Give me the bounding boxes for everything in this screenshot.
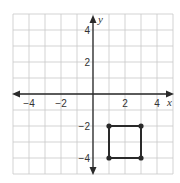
vertex-point: [106, 123, 111, 128]
x-tick-label: 4: [154, 98, 160, 109]
vertex-point: [138, 123, 143, 128]
y-tick-label: −4: [79, 153, 91, 164]
vertex-point: [106, 155, 111, 160]
axes: x y: [12, 13, 174, 175]
y-tick-label: −2: [79, 121, 91, 132]
x-axis-label: x: [166, 96, 172, 108]
y-tick-label: 4: [84, 25, 90, 36]
x-tick-label: −4: [23, 98, 35, 109]
y-tick-label: 2: [84, 57, 90, 68]
x-tick-label: −2: [55, 98, 67, 109]
y-axis-label: y: [97, 13, 103, 25]
vertex-point: [138, 155, 143, 160]
x-tick-label: 2: [122, 98, 128, 109]
coordinate-plane: x y −4−22442−2−4: [0, 0, 180, 183]
y-axis-arrow-up-icon: [90, 15, 97, 23]
